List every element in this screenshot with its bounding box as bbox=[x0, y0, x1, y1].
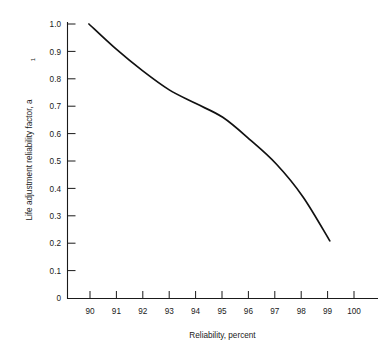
y-tick-label: 0.3 bbox=[50, 212, 62, 221]
x-tick-label: 91 bbox=[112, 307, 122, 316]
x-tick-label: 94 bbox=[191, 307, 201, 316]
chart-plot-area: 1.0 0.9 0.8 0.7 0.6 0.5 0.4 0.3 0.2 0.1 … bbox=[0, 0, 391, 353]
y-tick-labels: 1.0 0.9 0.8 0.7 0.6 0.5 0.4 0.3 0.2 0.1 … bbox=[50, 20, 62, 303]
y-tick-label: 0.8 bbox=[50, 75, 62, 84]
x-tick-label: 95 bbox=[217, 307, 227, 316]
y-tick-label: 0 bbox=[56, 294, 61, 303]
x-tick-label: 97 bbox=[270, 307, 280, 316]
y-axis-title: Life adjustment reliability factor, a bbox=[25, 99, 34, 220]
y-tick-label: 0.4 bbox=[50, 185, 62, 194]
x-tick-label: 100 bbox=[347, 307, 361, 316]
y-tick-label: 0.7 bbox=[50, 102, 62, 111]
axis-spines bbox=[68, 22, 379, 299]
x-tick-labels: 90 91 92 93 94 95 96 97 98 99 100 bbox=[85, 307, 361, 316]
y-tick-label: 0.5 bbox=[50, 157, 62, 166]
x-tick-label: 90 bbox=[85, 307, 95, 316]
x-axis-ticks bbox=[90, 291, 354, 299]
y-tick-label: 0.1 bbox=[50, 267, 62, 276]
y-tick-label: 0.9 bbox=[50, 48, 62, 57]
y-tick-label: 0.2 bbox=[50, 239, 62, 248]
x-tick-label: 92 bbox=[138, 307, 148, 316]
y-axis-ticks bbox=[68, 24, 76, 271]
y-tick-label: 1.0 bbox=[50, 20, 62, 29]
reliability-factor-curve bbox=[89, 24, 330, 241]
x-tick-label: 99 bbox=[323, 307, 333, 316]
chart-figure: 1.0 0.9 0.8 0.7 0.6 0.5 0.4 0.3 0.2 0.1 … bbox=[0, 0, 391, 353]
y-axis-title-group: Life adjustment reliability factor, a 1 bbox=[25, 57, 36, 220]
y-tick-label: 0.6 bbox=[50, 130, 62, 139]
x-axis-title: Reliability, percent bbox=[189, 331, 256, 340]
x-tick-label: 93 bbox=[165, 307, 175, 316]
x-tick-label: 98 bbox=[297, 307, 307, 316]
y-axis-title-subscript: 1 bbox=[30, 57, 36, 61]
x-tick-label: 96 bbox=[244, 307, 254, 316]
